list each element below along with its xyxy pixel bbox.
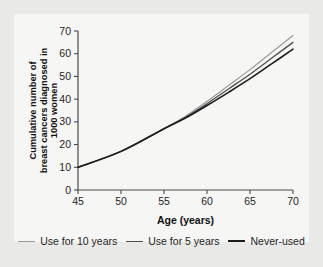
x-tick-label: 70 [287, 195, 299, 207]
y-tick-label: 40 [59, 93, 71, 105]
y-tick-label: 20 [59, 138, 71, 150]
y-tick-label: 30 [59, 115, 71, 127]
y-axis-ticks: 010203040506070 [59, 25, 78, 196]
series-line-use-for-10-years [78, 36, 293, 168]
legend-swatch-line-icon [228, 240, 245, 242]
figure-container: 010203040506070 455055606570 Cumulative … [0, 0, 323, 267]
legend-swatch-line-icon [18, 241, 35, 242]
x-tick-label: 55 [158, 195, 170, 207]
x-tick-label: 60 [201, 195, 213, 207]
x-axis-ticks: 455055606570 [72, 190, 299, 207]
y-axis-title-line: Cumulative number of [28, 61, 38, 160]
y-tick-label: 60 [59, 47, 71, 59]
line-chart: 010203040506070 455055606570 Cumulative … [0, 0, 323, 267]
legend-label: Use for 5 years [148, 235, 219, 247]
legend-swatch-line-icon [126, 241, 143, 242]
series-group [78, 36, 293, 168]
x-tick-label: 45 [72, 195, 84, 207]
legend-label: Use for 10 years [40, 235, 117, 247]
y-tick-label: 0 [65, 184, 71, 196]
x-tick-label: 50 [115, 195, 127, 207]
chart-legend: Use for 10 yearsUse for 5 yearsNever-use… [0, 230, 323, 252]
y-axis-title: Cumulative number ofbreast cancers diagn… [28, 47, 59, 173]
y-tick-label: 70 [59, 25, 71, 37]
axis-lines [78, 31, 293, 190]
y-axis-title-line: breast cancers diagnosed in [39, 47, 49, 173]
x-axis-title-label: Age (years) [157, 214, 214, 226]
y-axis-title-line: 1000 women [49, 83, 59, 139]
legend-item: Use for 10 years [18, 235, 117, 247]
y-tick-label: 10 [59, 161, 71, 173]
legend-label: Never-used [250, 235, 304, 247]
legend-item: Never-used [228, 235, 304, 247]
x-tick-label: 65 [244, 195, 256, 207]
y-tick-label: 50 [59, 70, 71, 82]
legend-item: Use for 5 years [126, 235, 219, 247]
